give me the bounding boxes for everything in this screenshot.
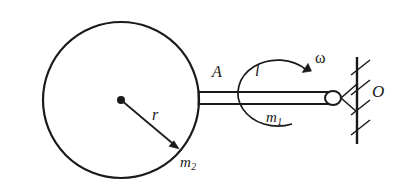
label-rod-mass-subscript: 1 [277,116,282,127]
label-attachment-point-A: A [212,64,222,80]
label-disk-mass-base: m [180,154,191,170]
label-pivot-point-O: O [372,83,384,100]
pin-joint-icon [325,91,341,105]
label-disk-mass-m2: m2 [180,155,196,172]
label-rod-mass-base: m [266,109,277,125]
hatched-wall-icon [351,57,370,144]
support-triangle-icon [341,84,357,112]
label-rod-mass-m1: m1 [266,110,282,127]
radius-arrow-icon [121,100,179,149]
physics-diagram: A l m1 r m2 ω O [0,0,407,193]
label-disk-mass-subscript: 2 [191,161,196,172]
diagram-canvas [0,0,407,193]
label-rod-length-l: l [255,63,259,79]
rod-body [198,91,331,106]
label-angular-velocity-omega: ω [315,50,326,66]
label-disk-radius-r: r [152,107,158,123]
